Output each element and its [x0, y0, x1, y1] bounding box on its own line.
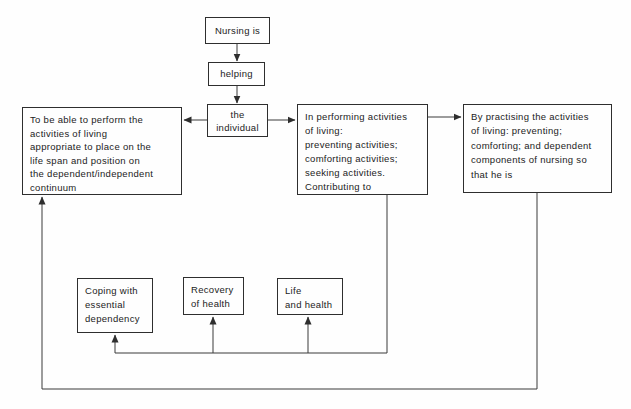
nursing-model-flow-diagram: Nursing is helping the individual To be …: [0, 0, 631, 409]
diagram-connectors: [0, 0, 631, 409]
node-the-individual: the individual: [207, 104, 268, 137]
node-helping: helping: [208, 62, 265, 86]
node-in-performing-activities: In performing activities of living: prev…: [297, 104, 428, 195]
node-coping-with-essential-dependency: Coping with essential dependency: [77, 278, 153, 333]
node-nursing-is: Nursing is: [205, 17, 270, 44]
feedback-performing-to-coping: [115, 195, 387, 353]
node-recovery-of-health: Recovery of health: [183, 277, 244, 315]
node-by-practising-activities: By practising the activities of living: …: [463, 104, 612, 193]
node-perform-activities-of-living: To be able to perform the activities of …: [22, 107, 182, 195]
node-life-and-health: Life and health: [277, 278, 343, 315]
